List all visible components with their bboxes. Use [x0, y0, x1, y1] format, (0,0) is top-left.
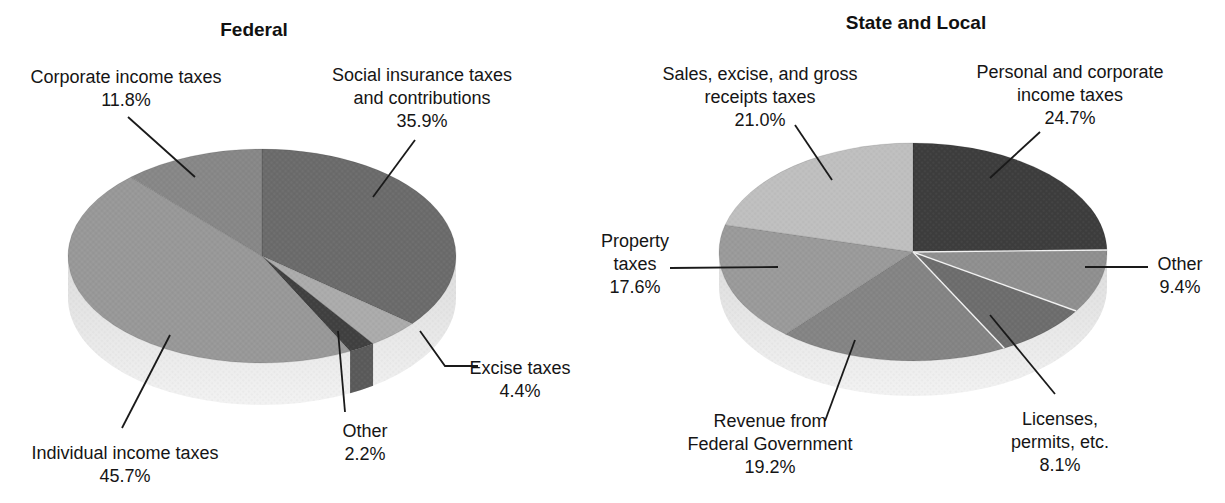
chart-title-federal: Federal — [220, 19, 288, 41]
slice-label-other: Other9.4% — [1157, 253, 1202, 299]
slice-percent-text: 19.2% — [687, 456, 852, 479]
slice-label-personal-and-corporate-income-taxes: Personal and corporateincome taxes24.7% — [976, 61, 1163, 130]
halftone-overlay — [719, 143, 1107, 361]
slice-label-licenses-permits-etc: Licenses,permits, etc.8.1% — [1011, 408, 1109, 477]
slice-label-text: and contributions — [332, 87, 512, 110]
slice-label-text: Social insurance taxes — [332, 64, 512, 87]
leader-line-property-taxes — [670, 267, 778, 268]
slice-label-text: Licenses, — [1011, 408, 1109, 431]
slice-label-text: permits, etc. — [1011, 431, 1109, 454]
slice-percent-text: 2.2% — [342, 443, 387, 466]
slice-percent-text: 21.0% — [662, 109, 857, 132]
slice-label-sales-excise-and-gross-receipts-taxes: Sales, excise, and grossreceipts taxes21… — [662, 63, 857, 132]
slice-percent-text: 4.4% — [469, 380, 570, 403]
slice-label-revenue-from-federal-government: Revenue fromFederal Government19.2% — [687, 410, 852, 479]
halftone-overlay — [68, 149, 456, 363]
slice-label-excise-taxes: Excise taxes4.4% — [469, 357, 570, 403]
slice-label-text: Individual income taxes — [31, 442, 218, 465]
slice-label-text: Excise taxes — [469, 357, 570, 380]
slice-percent-text: 9.4% — [1157, 276, 1202, 299]
slice-percent-text: 24.7% — [976, 107, 1163, 130]
slice-label-text: receipts taxes — [662, 86, 857, 109]
slice-percent-text: 11.8% — [30, 89, 221, 112]
pie-federal — [68, 117, 478, 428]
tax-sources-pie-figure: Federal State and Local Social insurance… — [0, 0, 1225, 503]
slice-label-text: Personal and corporate — [976, 61, 1163, 84]
slice-label-individual-income-taxes: Individual income taxes45.7% — [31, 442, 218, 488]
slice-percent-text: 8.1% — [1011, 454, 1109, 477]
slice-percent-text: 35.9% — [332, 110, 512, 133]
chart-title-state-and-local: State and Local — [846, 12, 986, 34]
slice-label-text: income taxes — [976, 84, 1163, 107]
slice-label-text: taxes — [601, 253, 669, 276]
slice-percent-text: 17.6% — [601, 276, 669, 299]
slice-label-text: Sales, excise, and gross — [662, 63, 857, 86]
slice-label-text: Revenue from — [687, 410, 852, 433]
slice-label-text: Federal Government — [687, 433, 852, 456]
slice-label-social-insurance-taxes-and-contributions: Social insurance taxesand contributions3… — [332, 64, 512, 133]
slice-label-text: Other — [1157, 253, 1202, 276]
slice-label-corporate-income-taxes: Corporate income taxes11.8% — [30, 66, 221, 112]
pie-state-and-local — [670, 125, 1148, 421]
slice-label-text: Property — [601, 230, 669, 253]
slice-label-property-taxes: Propertytaxes17.6% — [601, 230, 669, 299]
slice-percent-text: 45.7% — [31, 465, 218, 488]
slice-label-text: Other — [342, 420, 387, 443]
slice-label-other: Other2.2% — [342, 420, 387, 466]
slice-label-text: Corporate income taxes — [30, 66, 221, 89]
